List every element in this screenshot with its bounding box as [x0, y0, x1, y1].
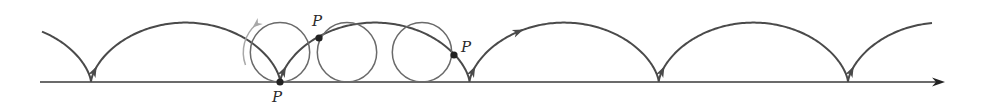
point-p-marker [450, 51, 457, 58]
circle-2 [317, 23, 376, 82]
point-p-label: P [460, 38, 472, 56]
point-p-label: P [271, 88, 283, 105]
point-labels: PPP [271, 12, 472, 105]
direction-arrow-icons [88, 26, 857, 78]
point-p-marker [315, 34, 322, 41]
point-markers [276, 34, 457, 85]
cycloid-curve [42, 23, 932, 82]
point-p-marker [276, 78, 283, 85]
point-p-label: P [311, 12, 323, 30]
cycloid-diagram: PPP [0, 0, 983, 105]
